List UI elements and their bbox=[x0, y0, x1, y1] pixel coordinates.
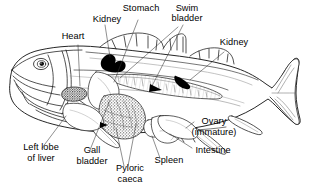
label-ovary-line1: Ovary bbox=[190, 116, 238, 127]
label-kidney-posterior: Kidney bbox=[210, 37, 258, 48]
label-left-lobe-of-liver-line2: of liver bbox=[10, 153, 72, 164]
label-pyloric-caeca-line2: caeca bbox=[106, 174, 154, 185]
label-stomach: Stomach bbox=[117, 3, 165, 14]
label-heart: Heart bbox=[52, 31, 94, 42]
label-intestine: Intestine bbox=[186, 145, 240, 156]
label-swim-bladder-line2: bladder bbox=[166, 13, 208, 24]
label-left-lobe-of-liver-line1: Left lobe bbox=[10, 142, 72, 153]
heart-organ bbox=[62, 87, 87, 101]
fish-illustration bbox=[0, 0, 312, 195]
label-spleen: Spleen bbox=[147, 155, 191, 166]
label-kidney-anterior: Kidney bbox=[83, 14, 131, 25]
label-ovary-line2: (immature) bbox=[182, 127, 246, 138]
fish-anatomy-diagram: Heart Kidney Stomach Swim bladder Kidney… bbox=[0, 0, 312, 195]
label-gall-bladder-line1: Gall bbox=[68, 145, 116, 156]
label-swim-bladder-line1: Swim bbox=[166, 3, 208, 14]
fish-eye bbox=[34, 58, 49, 69]
